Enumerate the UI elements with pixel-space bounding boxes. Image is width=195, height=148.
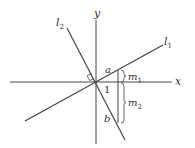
- point-b-label: b: [104, 113, 110, 124]
- point-a-label: a: [105, 64, 111, 75]
- brace-m2: m2: [121, 83, 142, 123]
- y-axis-label: y: [93, 7, 101, 20]
- l1-label: l1: [164, 35, 172, 50]
- m2-label: m2: [128, 97, 142, 111]
- x-axis-label: x: [175, 75, 182, 88]
- brace-m1: m1: [121, 70, 142, 85]
- line-l1: l1: [25, 35, 172, 121]
- l2-label: l2: [56, 16, 64, 31]
- slope-perpendicular-diagram: x y l1 l2 a 1 b m1: [0, 0, 195, 148]
- unit-label: 1: [104, 84, 110, 95]
- line-l2: l2: [56, 16, 125, 140]
- m1-label: m1: [128, 71, 142, 85]
- y-axis: y: [93, 7, 101, 144]
